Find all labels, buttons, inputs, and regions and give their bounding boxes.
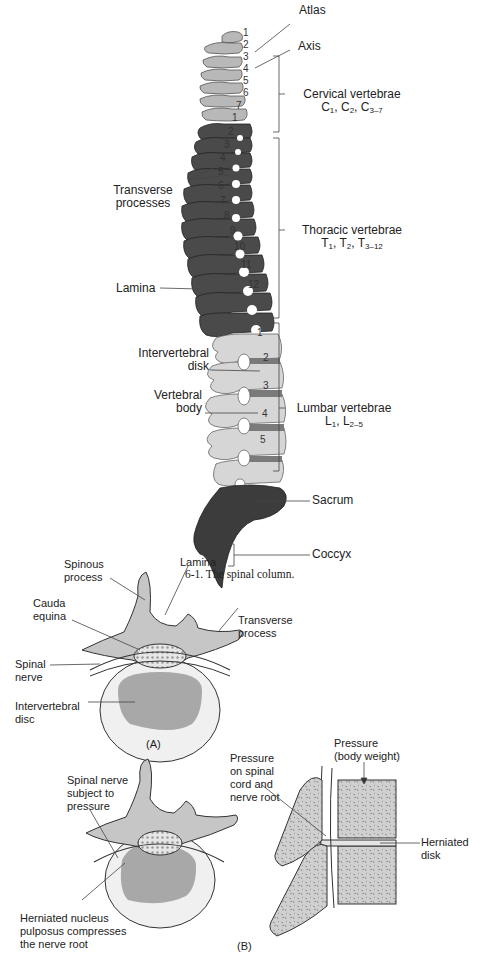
thoracic-number: 12 <box>248 279 259 290</box>
label-axis: Axis <box>298 40 321 53</box>
region-cervical: Cervical vertebrae C1, C2, C3–7 <box>287 88 417 117</box>
label-vertebral-body: Vertebral body <box>120 389 202 415</box>
label-intervertebral-disk: Intervertebral disk <box>116 347 209 373</box>
lumbar-number: 3 <box>263 380 269 391</box>
thoracic-number: 6 <box>218 180 224 191</box>
panel-label-b: (B) <box>237 940 252 953</box>
thoracic-number: 7 <box>220 195 226 206</box>
cervical-number: 3 <box>243 51 249 62</box>
thoracic-number: 3 <box>224 139 230 150</box>
label-coccyx: Coccyx <box>312 548 351 561</box>
thoracic-number: 10 <box>234 241 245 252</box>
cervical-number: 5 <box>243 75 249 86</box>
label-spinous-process: Spinous process <box>64 558 104 584</box>
thoracic-vertebrae-shape <box>182 124 274 337</box>
figure-caption: 6-1. The spinal column. <box>185 568 294 580</box>
region-thoracic: Thoracic vertebrae T1, T2, T3–12 <box>287 224 417 253</box>
thoracic-number: 4 <box>220 152 226 163</box>
label-herniated-nucleus: Herniated nucleus pulposus compresses th… <box>20 912 126 951</box>
lumbar-vertebrae-shape <box>205 334 286 489</box>
label-cauda-equina: Cauda equina <box>33 597 66 623</box>
label-lamina-top: Lamina <box>116 282 155 295</box>
label-spinal-nerve-pressure: Spinal nerve subject to pressure <box>67 774 128 813</box>
thoracic-number: 9 <box>230 225 236 236</box>
lumbar-number: 2 <box>263 352 269 363</box>
label-spinal-nerve: Spinal nerve <box>15 658 46 684</box>
figure-a-vertebra <box>82 572 243 762</box>
cervical-number: 7 <box>236 100 242 111</box>
label-transverse-process: Transverse process <box>238 614 293 640</box>
region-cervical-name: Cervical vertebrae <box>287 88 417 101</box>
label-herniated-disk: Herniated disk <box>421 836 469 862</box>
panel-label-a: (A) <box>146 738 161 751</box>
lumbar-number: 5 <box>260 434 266 445</box>
thoracic-number: 5 <box>218 166 224 177</box>
spine-artwork <box>0 0 501 960</box>
label-transverse-processes: Transverse processes <box>98 184 188 210</box>
label-sacrum: Sacrum <box>312 494 353 507</box>
lumbar-number: 1 <box>257 327 263 338</box>
thoracic-number: 8 <box>224 210 230 221</box>
label-pressure-body-weight: Pressure (body weight) <box>334 737 400 763</box>
cervical-number: 4 <box>243 63 249 74</box>
thoracic-number: 1 <box>232 112 238 123</box>
label-intervertebral-disc: Intervertebral disc <box>15 700 80 726</box>
region-lumbar-notation: L1, L2–5 <box>284 415 404 431</box>
label-atlas: Atlas <box>299 4 326 17</box>
region-lumbar: Lumbar vertebrae L1, L2–5 <box>284 402 404 431</box>
region-cervical-notation: C1, C2, C3–7 <box>287 101 417 117</box>
cervical-number: 2 <box>243 39 249 50</box>
region-thoracic-notation: T1, T2, T3–12 <box>287 237 417 253</box>
figure-b-lateral-spine <box>270 766 396 936</box>
cervical-number: 1 <box>243 27 249 38</box>
thoracic-number: 2 <box>228 126 234 137</box>
label-lamina-a: Lamina <box>180 556 216 569</box>
label-pressure-cord: Pressure on spinal cord and nerve root <box>230 752 280 804</box>
lumbar-number: 4 <box>262 408 268 419</box>
cervical-number: 6 <box>243 87 249 98</box>
thoracic-number: 11 <box>241 259 251 270</box>
